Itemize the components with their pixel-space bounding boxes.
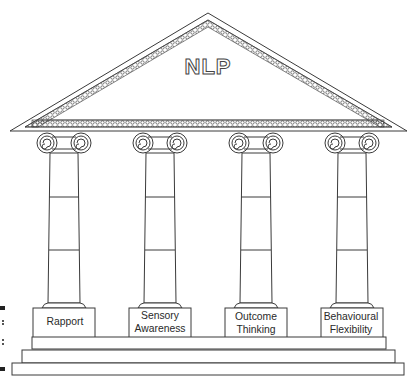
temple-steps bbox=[12, 337, 404, 375]
margin-tick bbox=[2, 323, 4, 325]
step-top bbox=[32, 337, 386, 349]
pillar-label-behavioural-flexibility: Behavioural Flexibility bbox=[321, 310, 380, 336]
nlp-temple-diagram: NLP Rapport Sensory Awareness Outcome Th… bbox=[0, 0, 409, 378]
column-2 bbox=[129, 133, 191, 338]
step-bottom bbox=[12, 363, 404, 375]
pillar-label-outcome-thinking: Outcome Thinking bbox=[227, 310, 285, 336]
margin-mark-bottom bbox=[0, 367, 5, 371]
column-4 bbox=[321, 133, 383, 338]
margin-tick bbox=[2, 320, 4, 322]
column-1 bbox=[33, 133, 95, 338]
diagram-title: NLP bbox=[180, 54, 236, 80]
step-middle bbox=[22, 350, 395, 363]
pillar-label-sensory-awareness: Sensory Awareness bbox=[131, 309, 189, 335]
margin-tick bbox=[2, 339, 4, 341]
pillar-label-rapport: Rapport bbox=[37, 315, 93, 328]
margin-tick bbox=[2, 343, 4, 345]
margin-mark-top bbox=[0, 306, 5, 310]
column-3 bbox=[225, 133, 287, 338]
